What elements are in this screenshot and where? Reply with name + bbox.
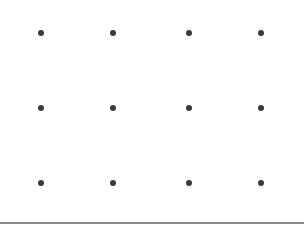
grid-dot: [186, 30, 192, 36]
grid-dot: [110, 30, 116, 36]
baseline-divider: [0, 222, 304, 224]
grid-dot: [258, 180, 264, 186]
grid-dot: [110, 180, 116, 186]
grid-dot: [258, 30, 264, 36]
grid-dot: [258, 105, 264, 111]
grid-dot: [186, 105, 192, 111]
grid-dot: [38, 180, 44, 186]
grid-dot: [110, 105, 116, 111]
grid-dot: [38, 105, 44, 111]
grid-dot: [186, 180, 192, 186]
grid-dot: [38, 30, 44, 36]
